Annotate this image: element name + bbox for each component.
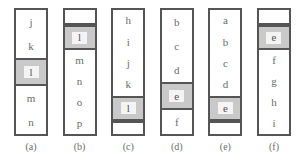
stack-column: bcdef(d) [160, 8, 194, 152]
stack-cell-label: e [218, 102, 233, 114]
stack-cell-label: j [29, 17, 32, 28]
stack-cell: f [259, 50, 289, 71]
stack-cell: d [162, 58, 192, 82]
stack-cell-label: d [223, 79, 229, 90]
stack-cell: i [113, 31, 143, 52]
stack-cell: h [259, 92, 289, 113]
column-caption: (c) [111, 142, 145, 152]
stack-cell-label: d [174, 65, 180, 76]
stack-cell-label: o [77, 97, 83, 108]
stack-column: jklmn(a) [14, 8, 48, 152]
stack-cell-label: j [127, 58, 130, 69]
stack-cell: j [113, 53, 143, 74]
stack-container: jklmn [14, 8, 48, 136]
stack-cell: n [65, 71, 95, 92]
stack-cell: m [16, 86, 46, 110]
stack-cell-label: e [169, 90, 184, 102]
stack-cell-label: l [24, 66, 39, 78]
column-caption: (e) [208, 142, 242, 152]
stack-column: hijkl(c) [111, 8, 145, 152]
stack-container: hijkl [111, 8, 145, 136]
stack-cell: a [210, 10, 240, 31]
column-caption: (b) [63, 142, 97, 152]
stack-cell-label: i [127, 37, 130, 48]
stack-diagram-figure: jklmn(a)lmnop(b)hijkl(c)bcdef(d)abcde(e)… [0, 0, 301, 161]
stack-cell-label: k [125, 79, 131, 90]
stack-cell: d [210, 74, 240, 95]
stack-cell: c [162, 34, 192, 58]
stack-column: abcde(e) [208, 8, 242, 152]
stack-container: abcde [208, 8, 242, 136]
stack-cell-label: m [27, 93, 36, 104]
stack-cell: c [210, 53, 240, 74]
stack-container: bcdef [160, 8, 194, 136]
stack-cell-highlighted: e [162, 82, 192, 110]
stack-cell-highlighted: l [16, 58, 46, 86]
stack-column: lmnop(b) [63, 8, 97, 152]
stack-cell: m [65, 50, 95, 71]
stack-cell-label: m [75, 55, 84, 66]
stack-cell: b [162, 10, 192, 34]
stack-cell-label: e [266, 32, 281, 44]
stack-cell-highlighted: e [210, 96, 240, 121]
stack-column: efghi(f) [257, 8, 291, 152]
column-caption: (a) [14, 142, 48, 152]
stack-cell-label: p [77, 118, 83, 129]
stack-cell-empty [65, 10, 95, 25]
stack-cell-label: f [272, 55, 276, 66]
stack-container: efghi [257, 8, 291, 136]
column-group: jklmn(a)lmnop(b)hijkl(c)bcdef(d)abcde(e)… [0, 0, 301, 161]
stack-cell: b [210, 31, 240, 52]
stack-cell-label: g [271, 76, 277, 87]
stack-cell-label: b [223, 37, 229, 48]
stack-cell-empty [210, 121, 240, 134]
stack-cell-label: n [77, 76, 83, 87]
column-caption: (f) [257, 142, 291, 152]
stack-cell-highlighted: e [259, 25, 289, 50]
stack-cell-highlighted: l [113, 96, 143, 121]
stack-cell-label: l [72, 32, 87, 44]
column-caption: (d) [160, 142, 194, 152]
stack-cell-label: h [271, 97, 277, 108]
stack-container: lmnop [63, 8, 97, 136]
stack-cell-label: b [174, 17, 180, 28]
stack-cell: k [113, 74, 143, 95]
stack-cell: i [259, 113, 289, 134]
stack-cell-label: f [175, 117, 179, 128]
stack-cell-label: c [223, 58, 228, 69]
stack-cell-label: l [121, 102, 136, 114]
stack-cell-label: h [125, 15, 131, 26]
stack-cell: f [162, 110, 192, 134]
stack-cell-empty [113, 121, 143, 134]
stack-cell: n [16, 110, 46, 134]
stack-cell-label: c [174, 41, 179, 52]
stack-cell: j [16, 10, 46, 34]
stack-cell: o [65, 92, 95, 113]
stack-cell-empty [259, 10, 289, 25]
stack-cell-label: k [28, 41, 34, 52]
stack-cell: g [259, 71, 289, 92]
stack-cell: h [113, 10, 143, 31]
stack-cell-label: i [272, 118, 275, 129]
stack-cell: k [16, 34, 46, 58]
stack-cell-highlighted: l [65, 25, 95, 50]
stack-cell-label: n [28, 117, 34, 128]
stack-cell-label: a [223, 15, 228, 26]
stack-cell: p [65, 113, 95, 134]
